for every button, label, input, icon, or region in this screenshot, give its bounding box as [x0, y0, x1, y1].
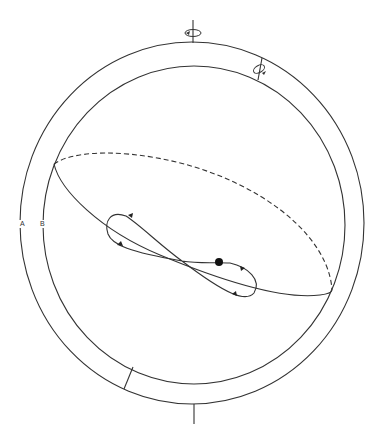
orbit-front-solid	[54, 164, 332, 296]
moving-body-dot	[215, 258, 223, 266]
label-b: B	[39, 220, 46, 228]
tilted-axis	[258, 58, 262, 80]
inner-ring	[43, 66, 345, 384]
direction-arrow-icons	[117, 213, 245, 296]
figure-eight-path	[107, 214, 257, 296]
lower-ring-pivot	[124, 367, 133, 389]
label-a: A	[19, 220, 26, 228]
outer-ring	[20, 42, 364, 404]
gimbal-diagram	[0, 0, 380, 429]
